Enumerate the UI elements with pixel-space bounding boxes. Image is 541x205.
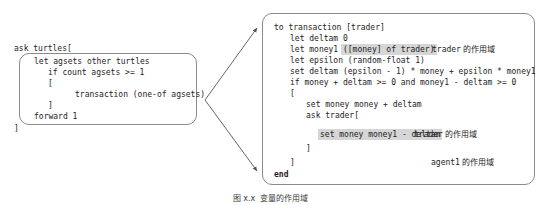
annotation-trader-scope-1-text: 的作用域	[461, 45, 496, 54]
keyword-to: to	[274, 23, 284, 32]
annotation-agent1-scope-text: 的作用域	[460, 158, 495, 167]
left-line-let-agsets: let agsets other turtles	[34, 57, 150, 67]
right-line-ask-trader: ask trader[	[306, 111, 359, 121]
right-line-if-condition: if money + deltam >= 0 and money1 - delt…	[290, 78, 516, 88]
annotation-trader-scope-2-name: trader	[414, 130, 443, 139]
right-line-close-outer-bracket: ]	[290, 158, 295, 168]
left-line-close-bracket: ]	[48, 101, 53, 111]
arrow-to-top	[205, 28, 257, 100]
right-line-to-transaction: to transaction [trader]	[274, 23, 385, 33]
right-line-let-deltam: let deltam 0	[290, 34, 348, 44]
left-footer-line: ]	[14, 124, 19, 134]
annotation-agent1-scope-name: agent1	[431, 158, 460, 167]
right-line-let-money1-prefix: let money1	[290, 45, 343, 54]
annotation-trader-scope-2-text: 的作用域	[443, 130, 478, 139]
right-line-let-money1: let money1 ([money] of trader)	[290, 45, 435, 55]
right-line-set-deltam: set deltam (epsilon - 1) * money + epsil…	[290, 67, 536, 77]
annotation-agent1-scope: agent1 的作用域	[431, 158, 494, 168]
left-line-open-bracket: [	[48, 79, 53, 89]
right-line-close-inner-bracket: ]	[306, 144, 311, 154]
left-line-if-count: if count agsets >= 1	[48, 68, 144, 78]
left-line-forward: forward 1	[34, 112, 77, 122]
figure-caption: 图 x.x 变量的作用域	[0, 193, 541, 204]
right-line-to-transaction-rest: transaction [trader]	[284, 23, 385, 32]
scope-diagram-figure: ask turtles[ let agsets other turtles if…	[0, 0, 541, 205]
arrow-to-bottom	[205, 100, 257, 171]
highlight-money-of-trader: ([money] of trader)	[341, 44, 437, 55]
right-line-let-epsilon: let epsilon (random-float 1)	[290, 56, 425, 66]
right-line-open-bracket: [	[290, 89, 295, 99]
annotation-trader-scope-1-name: trader	[432, 45, 461, 54]
right-line-set-money: set money money + deltam	[306, 100, 422, 110]
annotation-trader-scope-2: trader 的作用域	[414, 130, 477, 140]
annotation-trader-scope-1: trader 的作用域	[432, 45, 495, 55]
left-line-transaction-call: transaction (one-of agsets)	[75, 90, 205, 100]
right-line-end: end	[274, 170, 288, 180]
